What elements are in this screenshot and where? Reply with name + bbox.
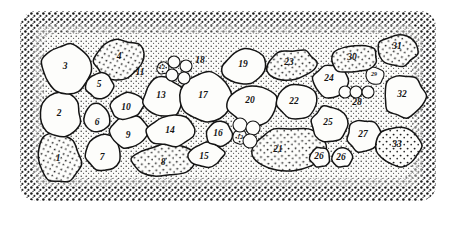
- satellite-vesicle-right-cluster-7: [339, 86, 351, 98]
- cell-number-label: 15: [199, 151, 209, 161]
- cell-number-label: 24: [323, 73, 334, 83]
- histology-figure: 1234567891011121314151617181920212223242…: [0, 0, 457, 225]
- cell-number-label: 32: [396, 89, 407, 99]
- cell-number-label: 31: [391, 41, 402, 51]
- cell-number-label: 33: [391, 139, 402, 149]
- cell-number-label: 29: [370, 71, 377, 77]
- cell-number-label: 3: [62, 61, 68, 71]
- cell-number-label: 26: [335, 152, 346, 162]
- cell-number-label: 16: [213, 128, 223, 138]
- cell-number-label: 19: [238, 59, 248, 69]
- cell-number-label: 1: [56, 153, 61, 163]
- satellite-vesicle-upper-cluster-3: [178, 72, 190, 84]
- satellite-vesicle-lower-cluster-5: [246, 121, 260, 135]
- satellite-vesicle-upper-cluster-2: [166, 69, 178, 81]
- cell-number-label: 8: [161, 157, 166, 167]
- satellite-vesicle-right-cluster-8: [350, 86, 362, 98]
- cell-number-label: 22: [288, 96, 299, 106]
- cell-number-label: 26: [313, 151, 324, 161]
- cell-number-label: 21: [272, 144, 283, 154]
- cell-number-label: 23: [283, 57, 294, 67]
- cell-number-label: 13: [156, 90, 166, 100]
- cell-number-label: 12: [237, 134, 243, 140]
- cell-number-label: 12: [159, 64, 165, 70]
- figure-root: 1234567891011121314151617181920212223242…: [0, 0, 457, 225]
- satellite-vesicle-right-cluster-9: [362, 86, 374, 98]
- satellite-vesicle-lower-cluster-6: [243, 134, 257, 148]
- cell-number-label: 28: [351, 97, 362, 107]
- cell-number-label: 27: [357, 129, 369, 139]
- cell-number-label: 4: [116, 51, 122, 61]
- cell-number-label: 14: [165, 125, 175, 135]
- cell-number-label: 30: [346, 52, 357, 62]
- cell-number-label: 6: [95, 117, 100, 127]
- cell-number-label: 10: [121, 102, 131, 112]
- cell-number-label: 5: [97, 79, 102, 89]
- satellite-vesicle-upper-cluster-1: [180, 60, 192, 72]
- cell-number-label: 18: [195, 55, 205, 65]
- satellite-vesicle-lower-cluster-4: [233, 118, 247, 132]
- satellite-vesicle-upper-cluster-0: [168, 56, 180, 68]
- cell-number-label: 17: [198, 90, 209, 100]
- cell-number-label: 25: [322, 117, 333, 127]
- cell-number-label: 2: [56, 108, 62, 118]
- cell-number-label: 9: [126, 130, 131, 140]
- cell-number-label: 20: [244, 95, 255, 105]
- cell-number-label: 11: [136, 67, 145, 77]
